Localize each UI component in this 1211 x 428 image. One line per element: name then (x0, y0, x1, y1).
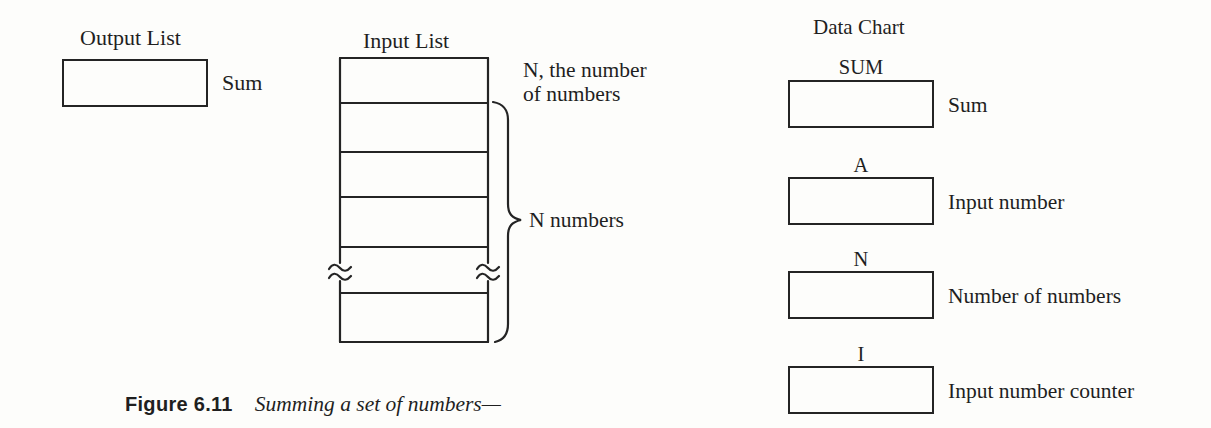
figure-number: Figure 6.11 (125, 393, 233, 415)
variable-description-a: Input number (948, 190, 1064, 215)
figure-title: Summing a set of numbers— (255, 392, 501, 416)
variable-name-sum: SUM (788, 56, 934, 79)
n-numbers-brace (493, 102, 521, 342)
brace-label: N numbers (529, 208, 624, 233)
n-annotation: N, the number of numbers (523, 59, 647, 106)
variable-description-n: Number of numbers (948, 284, 1121, 309)
variable-name-n: N (788, 248, 934, 271)
break-marks-left (329, 265, 351, 280)
output-list-title: Output List (80, 26, 181, 50)
variable-box-sum (788, 80, 934, 128)
output-list-box-label: Sum (222, 71, 262, 95)
input-list-diagram (325, 52, 540, 352)
n-annotation-line2: of numbers (523, 83, 647, 107)
variable-name-a: A (788, 154, 934, 177)
figure-caption: Figure 6.11Summing a set of numbers— (125, 392, 501, 417)
variable-box-a (788, 177, 934, 225)
break-marks-right (477, 265, 499, 280)
output-list-box (62, 59, 208, 107)
variable-description-i: Input number counter (948, 379, 1134, 404)
data-chart-title: Data Chart (813, 16, 905, 39)
variable-box-n (788, 271, 934, 319)
variable-description-sum: Sum (948, 93, 987, 118)
variable-name-i: I (788, 343, 934, 366)
n-annotation-line1: N, the number (523, 59, 647, 83)
variable-box-i (788, 366, 934, 414)
input-list-title: Input List (363, 29, 449, 53)
